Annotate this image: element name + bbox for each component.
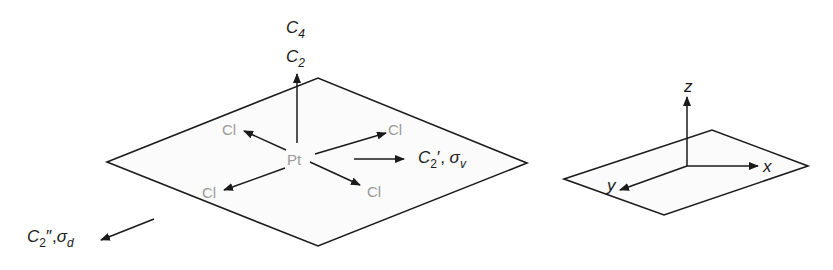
- y-axis-label: y: [606, 176, 617, 195]
- c2-label: C2: [286, 47, 305, 70]
- c4-label: C4: [286, 18, 305, 41]
- c2-double-prime-sigma-d-label: C2″,σd: [27, 227, 74, 250]
- diagram-canvas: Pt Cl Cl Cl Cl C4 C2 C2′, σv C2″,σd z x …: [0, 0, 833, 270]
- atom-cl-lower-right: Cl: [367, 183, 381, 200]
- atom-cl-upper-left: Cl: [222, 121, 236, 138]
- c2-double-prime-arrow: [101, 219, 154, 240]
- point-group-diagram: Pt Cl Cl Cl Cl C4 C2 C2′, σv C2″,σd z x …: [0, 0, 833, 270]
- x-axis-label: x: [762, 157, 772, 176]
- z-axis-label: z: [683, 77, 693, 96]
- atom-cl-lower-left: Cl: [202, 184, 216, 201]
- atom-cl-upper-right: Cl: [388, 121, 402, 138]
- atom-pt: Pt: [287, 151, 302, 168]
